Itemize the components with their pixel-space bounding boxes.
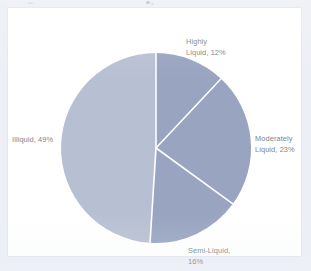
pie-label-highly-liquid: Highly Liquid, 12% [186, 37, 226, 58]
pie-slice[interactable] [61, 53, 156, 243]
scan-artifact [151, 3, 154, 5]
pie-label-moderately-liquid: Moderately Liquid, 23% [255, 134, 295, 155]
scan-artifact [146, 1, 150, 4]
pie-chart-figure: Highly Liquid, 12% Moderately Liquid, 23… [8, 8, 301, 256]
pie-label-illiquid: Illiquid, 49% [12, 135, 53, 146]
pie-chart-svg [8, 8, 303, 258]
pie-label-semi-liquid: Semi-Liquid, 16% [188, 246, 230, 267]
scan-artifact [28, 2, 33, 4]
chart-panel: Highly Liquid, 12% Moderately Liquid, 23… [7, 7, 302, 257]
